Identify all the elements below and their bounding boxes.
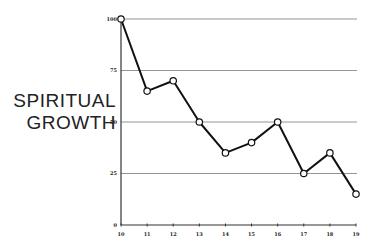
x-tick-label: 18 (326, 231, 333, 237)
gridlines (121, 19, 357, 174)
y-tick-labels: 0255075100 (107, 16, 118, 228)
data-point-marker (170, 78, 176, 84)
axes (121, 19, 356, 227)
data-point-marker (353, 191, 359, 197)
x-tick-label: 13 (196, 231, 203, 237)
y-tick-label: 50 (110, 119, 117, 125)
data-point-marker (144, 88, 150, 94)
x-tick-labels: 10111213141516171819 (118, 231, 360, 237)
data-point-marker (301, 170, 307, 176)
data-point-marker (274, 119, 280, 125)
data-point-marker (196, 119, 202, 125)
x-tick-label: 12 (170, 231, 177, 237)
y-tick-label: 25 (110, 170, 117, 176)
data-series (118, 16, 359, 198)
x-tick-label: 15 (248, 231, 255, 237)
y-tick-label: 100 (107, 16, 118, 22)
data-point-marker (248, 139, 254, 145)
data-point-marker (327, 150, 333, 156)
line-chart: 0255075100 10111213141516171819 (0, 0, 378, 248)
x-tick-label: 11 (144, 231, 151, 237)
y-tick-label: 75 (110, 67, 117, 73)
x-tick-label: 19 (353, 231, 360, 237)
data-point-marker (118, 16, 124, 22)
series-line (121, 19, 356, 194)
x-tick-label: 14 (222, 231, 229, 237)
data-point-marker (222, 150, 228, 156)
y-tick-label: 0 (114, 222, 118, 228)
x-tick-label: 16 (274, 231, 281, 237)
x-tick-label: 10 (118, 231, 125, 237)
x-tick-label: 17 (300, 231, 307, 237)
